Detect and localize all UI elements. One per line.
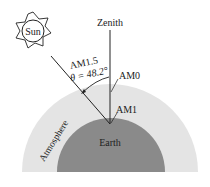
am0-label: AM0 (119, 70, 140, 81)
am1-label: AM1 (116, 104, 137, 115)
sun-label: Sun (25, 26, 41, 37)
earth-label: Earth (99, 137, 121, 148)
air-mass-diagram: Sun Zenith AM1.5 θ = 48.2° AM0 AM1 Atmos… (0, 0, 210, 187)
zenith-label: Zenith (97, 17, 123, 28)
